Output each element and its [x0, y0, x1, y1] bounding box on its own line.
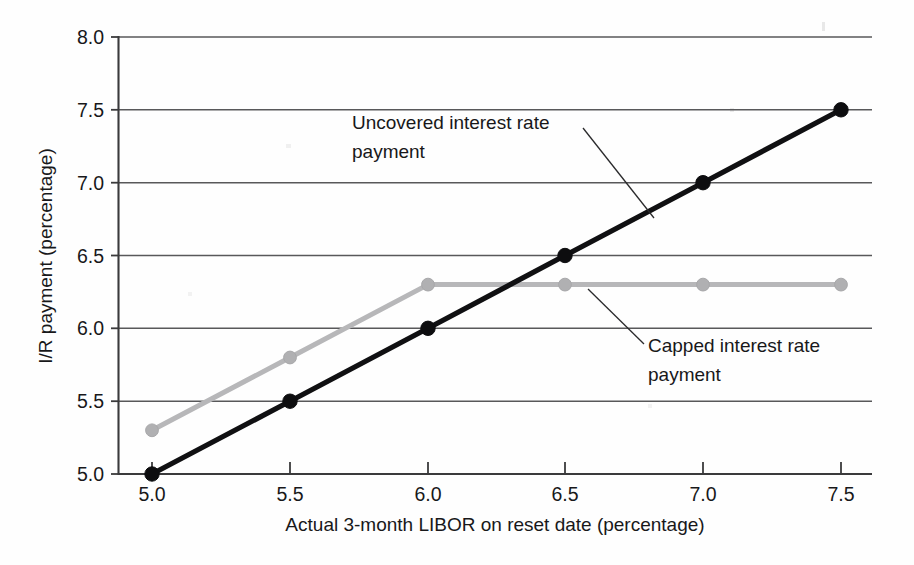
x-tick-label: 5.5 — [276, 483, 303, 505]
line-chart-canvas: 8.0 7.5 7.0 6.5 6.0 5.5 5.0 5.0 5.5 6.0 … — [0, 0, 914, 565]
data-point — [559, 278, 572, 291]
x-axis-title: Actual 3-month LIBOR on reset date (perc… — [285, 514, 704, 535]
annotation-capped-line-1: Capped interest rate — [648, 335, 820, 356]
data-point — [834, 103, 848, 117]
y-tick-label: 5.0 — [77, 463, 104, 485]
data-point — [146, 424, 159, 437]
y-tick-label: 6.0 — [77, 317, 104, 339]
annotation-uncovered-line-2: payment — [352, 141, 426, 162]
data-point — [696, 176, 710, 190]
x-tick-label: 6.0 — [414, 483, 441, 505]
data-point — [421, 321, 435, 335]
data-point — [284, 351, 297, 364]
x-tick-label: 7.0 — [689, 483, 716, 505]
data-point — [422, 278, 435, 291]
data-point — [558, 248, 572, 262]
x-tick-label: 6.5 — [551, 483, 578, 505]
y-tick-label: 5.5 — [77, 390, 104, 412]
data-point — [145, 467, 159, 481]
annotation-uncovered-line-1: Uncovered interest rate — [352, 112, 550, 133]
x-tick-label: 7.5 — [827, 483, 854, 505]
data-point — [835, 278, 848, 291]
data-point — [283, 394, 297, 408]
chart-figure: 8.0 7.5 7.0 6.5 6.0 5.5 5.0 5.0 5.5 6.0 … — [0, 0, 914, 565]
y-tick-label: 8.0 — [77, 26, 104, 48]
y-tick-label: 6.5 — [77, 245, 104, 267]
x-tick-label: 5.0 — [138, 483, 165, 505]
data-point — [697, 278, 710, 291]
annotation-capped-line-2: payment — [648, 364, 722, 385]
y-axis-title: I/R payment (percentage) — [35, 148, 56, 363]
y-tick-label: 7.5 — [77, 99, 104, 121]
y-tick-label: 7.0 — [77, 172, 104, 194]
